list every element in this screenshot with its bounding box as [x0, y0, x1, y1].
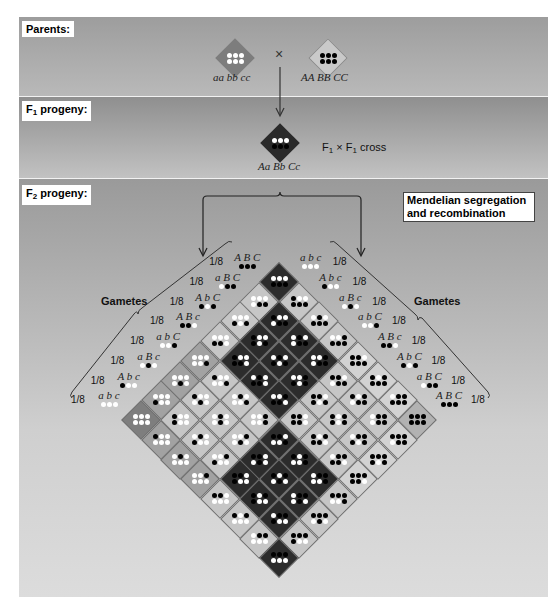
- f1-genotype: Aa Bb Cc: [258, 160, 300, 172]
- recessive-allele-dot: [336, 420, 341, 425]
- recessive-allele-dot: [153, 440, 158, 445]
- recessive-allele-dot: [107, 402, 112, 407]
- recessive-allele-dot: [218, 499, 223, 504]
- recessive-allele-dot: [233, 59, 238, 64]
- recessive-allele-dot: [244, 361, 249, 366]
- punnett-cell-alleles: [192, 473, 209, 484]
- punnett-cell-alleles: [311, 434, 328, 445]
- punnett-cell-alleles: [172, 454, 189, 465]
- recessive-allele-dot: [336, 335, 341, 340]
- dominant-allele-dot: [238, 361, 243, 366]
- gamete-dots: [134, 363, 164, 368]
- recessive-allele-dot: [368, 323, 373, 328]
- punnett-cell-alleles: [271, 276, 288, 287]
- dominant-allele-dot: [390, 400, 395, 405]
- gamete-label: A b C: [193, 292, 223, 303]
- dominant-allele-dot: [224, 381, 229, 386]
- dominant-allele-dot: [382, 375, 387, 380]
- punnett-cell-alleles: [232, 473, 249, 484]
- recessive-allele-dot: [362, 323, 367, 328]
- dominant-allele-dot: [180, 323, 185, 328]
- recessive-allele-dot: [311, 315, 316, 320]
- recessive-allele-dot: [330, 499, 335, 504]
- punnett-cell-alleles: [311, 315, 328, 326]
- recessive-allele-dot: [238, 355, 243, 360]
- recessive-allele-dot: [160, 343, 165, 348]
- dominant-allele-dot: [225, 284, 230, 289]
- recessive-allele-dot: [224, 375, 229, 380]
- recessive-allele-dot: [165, 394, 170, 399]
- dominant-allele-dot: [342, 454, 347, 459]
- left-gamete-frequency: 1/8: [150, 315, 164, 326]
- recessive-allele-dot: [271, 355, 276, 360]
- recessive-allele-dot: [283, 558, 288, 563]
- recessive-allele-dot: [257, 341, 262, 346]
- dominant-allele-dot: [277, 479, 282, 484]
- punnett-cell-alleles: [330, 414, 347, 425]
- dominant-allele-dot: [382, 414, 387, 419]
- recessive-allele-dot: [271, 276, 276, 281]
- recessive-allele-dot: [263, 499, 268, 504]
- dominant-allele-dot: [297, 493, 302, 498]
- recessive-allele-dot: [172, 381, 177, 386]
- recessive-allele-dot: [297, 381, 302, 386]
- dominant-allele-dot: [218, 341, 223, 346]
- dominant-allele-dot: [323, 473, 328, 478]
- dominant-allele-dot: [291, 302, 296, 307]
- recessive-allele-dot: [204, 440, 209, 445]
- dominant-allele-dot: [232, 361, 237, 366]
- recessive-allele-dot: [232, 434, 237, 439]
- dominant-allele-dot: [323, 434, 328, 439]
- dominant-allele-dot: [317, 473, 322, 478]
- punnett-cell-alleles: [271, 394, 288, 405]
- dominant-allele-dot: [277, 355, 282, 360]
- recessive-allele-dot: [342, 304, 347, 309]
- right-gamete-frequency: 1/8: [392, 315, 406, 326]
- dominant-allele-dot: [376, 420, 381, 425]
- dominant-allele-dot: [317, 394, 322, 399]
- recessive-allele-dot: [232, 394, 237, 399]
- dominant-allele-dot: [350, 479, 355, 484]
- recessive-allele-dot: [314, 264, 319, 269]
- dominant-allele-dot: [376, 381, 381, 386]
- right-gamete-frequency: 1/8: [412, 335, 426, 346]
- dominant-allele-dot: [257, 302, 262, 307]
- recessive-allele-dot: [311, 479, 316, 484]
- dominant-allele-dot: [232, 321, 237, 326]
- dominant-allele-dot: [120, 383, 125, 388]
- recessive-allele-dot: [166, 343, 171, 348]
- recessive-allele-dot: [283, 315, 288, 320]
- right-gamete-AbC: A b C: [395, 351, 425, 368]
- recessive-allele-dot: [323, 315, 328, 320]
- recessive-allele-dot: [297, 460, 302, 465]
- recessive-allele-dot: [376, 460, 381, 465]
- recessive-allele-dot: [165, 440, 170, 445]
- recessive-allele-dot: [232, 400, 237, 405]
- recessive-allele-dot: [244, 355, 249, 360]
- dominant-allele-dot: [303, 375, 308, 380]
- recessive-allele-dot: [204, 434, 209, 439]
- recessive-allele-dot: [257, 420, 262, 425]
- recessive-allele-dot: [139, 414, 144, 419]
- recessive-allele-dot: [421, 383, 426, 388]
- dominant-allele-dot: [291, 533, 296, 538]
- recessive-allele-dot: [251, 375, 256, 380]
- dominant-allele-dot: [251, 499, 256, 504]
- dominant-allele-dot: [263, 533, 268, 538]
- gamete-dots: [296, 264, 326, 269]
- right-gamete-aBC: a B C: [414, 371, 444, 388]
- dominant-allele-dot: [251, 264, 256, 269]
- dominant-allele-dot: [231, 284, 236, 289]
- dominant-allele-dot: [317, 315, 322, 320]
- dominant-allele-dot: [297, 533, 302, 538]
- recessive-allele-dot: [323, 440, 328, 445]
- punnett-cell-alleles: [350, 394, 367, 405]
- recessive-allele-dot: [330, 454, 335, 459]
- punnett-cell-alleles: [251, 375, 268, 386]
- gamete-label: a b C: [355, 311, 385, 322]
- punnett-cell-alleles: [271, 473, 288, 484]
- punnett-cell-alleles: [311, 394, 328, 405]
- dominant-allele-dot: [291, 539, 296, 544]
- punnett-cell-alleles: [271, 315, 288, 326]
- dominant-allele-dot: [257, 460, 262, 465]
